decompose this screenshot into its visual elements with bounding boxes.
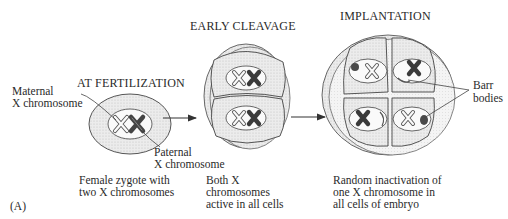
caption-implantation-line3: all cells of embryo	[333, 198, 419, 211]
maternal-label-line2: X chromosome	[12, 97, 83, 110]
early-cleavage-embryo	[204, 44, 290, 149]
implantation-embryo	[322, 35, 455, 155]
barr-body	[351, 63, 359, 71]
paternal-label-line2: X chromosome	[154, 158, 225, 171]
caption-fertilization-line2: two X chromosomes	[79, 186, 174, 199]
stage-title-implantation: IMPLANTATION	[340, 9, 431, 24]
panel-label: (A)	[10, 200, 26, 213]
caption-cleavage-line3: active in all cells	[206, 198, 284, 211]
zygote-cell	[89, 94, 171, 154]
stage-title-fertilization: AT FERTILIZATION	[77, 76, 185, 91]
stage-title-early-cleavage: EARLY CLEAVAGE	[190, 19, 296, 34]
barr-label-line2: bodies	[473, 92, 503, 105]
barr-label-line1: Barr	[473, 79, 493, 92]
